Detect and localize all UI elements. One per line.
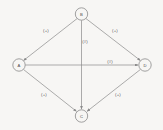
node-a-label: A [18, 63, 21, 68]
edge-b-a [23, 19, 77, 61]
edge-label-b-a: (+) [43, 28, 49, 33]
edge-label-b-c: (#) [82, 39, 88, 44]
edge-label-a-c: (+) [41, 92, 47, 97]
edge-label-d-c: (+) [115, 92, 121, 97]
graph-svg: (+) (+) (#) (#) (+) (+) B A D C [0, 0, 163, 130]
diagram-canvas: (+) (+) (#) (#) (+) (+) B A D C [0, 0, 163, 130]
node-b[interactable]: B [75, 8, 87, 20]
node-c[interactable]: C [75, 110, 87, 122]
edge-b-d [86, 19, 141, 61]
edge-label-b-d: (+) [112, 28, 118, 33]
node-a[interactable]: A [13, 59, 25, 71]
edge-a-c [23, 69, 76, 111]
edges-group [23, 19, 140, 112]
node-b-label: B [80, 12, 83, 17]
edge-d-c [87, 69, 141, 111]
node-d-label: D [143, 63, 146, 68]
edge-label-a-d: (#) [107, 59, 113, 64]
node-c-label: C [80, 114, 83, 119]
node-d[interactable]: D [139, 59, 151, 71]
